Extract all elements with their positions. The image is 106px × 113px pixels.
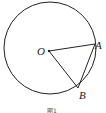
label-A: A <box>94 39 102 51</box>
segment-OB <box>49 51 78 88</box>
segment-OA <box>49 44 95 51</box>
label-O: O <box>37 45 45 57</box>
figure-caption: 图1 <box>47 107 57 113</box>
label-B: B <box>79 89 86 101</box>
geometry-diagram: O A B 图1 <box>0 0 106 113</box>
center-point-O <box>48 50 50 52</box>
circle <box>4 2 96 94</box>
